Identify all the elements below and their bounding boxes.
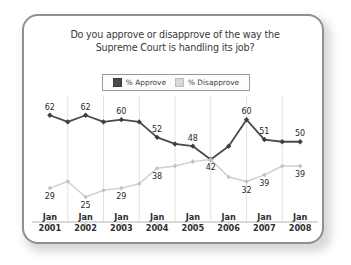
data-point-marker	[119, 186, 124, 191]
data-point-label: 62	[81, 103, 91, 112]
x-tick-year: 2007	[247, 223, 283, 234]
x-axis-tick-label: Jan2003	[104, 212, 140, 244]
chart-title-line-2: Supreme Court is handling its job?	[96, 42, 255, 53]
x-tick-month: Jan	[282, 212, 318, 223]
x-tick-year: 2004	[139, 223, 175, 234]
x-tick-month: Jan	[139, 212, 175, 223]
data-point-marker	[48, 186, 53, 191]
x-axis-tick-label: Jan2002	[68, 212, 104, 244]
x-axis-tick-label: Jan2008	[282, 212, 318, 244]
data-point-marker	[191, 159, 196, 164]
data-point-label: 39	[259, 179, 269, 188]
legend-item-approve: % Approve	[113, 78, 166, 87]
x-tick-year: 2006	[211, 223, 247, 234]
legend-label-disapprove: % Disapprove	[188, 78, 239, 87]
chart-card: Do you approve or disapprove of the way …	[22, 14, 324, 244]
data-point-label: 39	[295, 170, 305, 179]
data-point-label: 52	[152, 125, 162, 134]
x-tick-year: 2001	[32, 223, 68, 234]
data-point-marker	[173, 164, 178, 169]
data-point-label: 38	[152, 172, 162, 181]
data-point-label: 29	[116, 192, 126, 201]
data-point-label: 60	[241, 107, 251, 116]
x-axis-tick-label: Jan2004	[139, 212, 175, 244]
data-point-marker	[298, 164, 303, 169]
data-point-label: 29	[45, 192, 55, 201]
data-point-label: 62	[45, 103, 55, 112]
x-axis-tick-label: Jan2001	[32, 212, 68, 244]
data-point-label: 60	[116, 107, 126, 116]
data-point-label: 48	[188, 134, 198, 143]
data-point-marker	[65, 119, 70, 124]
data-point-marker	[172, 141, 177, 146]
x-tick-year: 2002	[68, 223, 104, 234]
x-tick-month: Jan	[68, 212, 104, 223]
x-tick-year: 2005	[175, 223, 211, 234]
x-tick-month: Jan	[32, 212, 68, 223]
data-point-marker	[101, 119, 106, 124]
data-point-marker	[297, 139, 302, 144]
data-point-label: 50	[295, 129, 305, 138]
data-point-marker	[47, 113, 52, 118]
x-axis-tick-label: Jan2006	[211, 212, 247, 244]
x-axis-tick-label: Jan2007	[247, 212, 283, 244]
data-point-marker	[244, 179, 249, 184]
chart-title: Do you approve or disapprove of the way …	[38, 28, 312, 54]
data-point-label: 25	[81, 201, 91, 210]
data-point-marker	[119, 117, 124, 122]
x-axis-tick-label: Jan2005	[175, 212, 211, 244]
legend-label-approve: % Approve	[126, 78, 166, 87]
x-axis-labels: Jan2001Jan2002Jan2003Jan2004Jan2005Jan20…	[32, 212, 318, 244]
x-tick-month: Jan	[175, 212, 211, 223]
chart-legend: % Approve % Disapprove	[102, 74, 250, 91]
legend-item-disapprove: % Disapprove	[175, 78, 239, 87]
data-point-label: 32	[241, 186, 251, 195]
x-tick-month: Jan	[211, 212, 247, 223]
x-tick-year: 2003	[104, 223, 140, 234]
x-tick-month: Jan	[247, 212, 283, 223]
legend-swatch-approve-icon	[113, 78, 122, 87]
data-point-marker	[280, 139, 285, 144]
x-tick-year: 2008	[282, 223, 318, 234]
data-point-label: 51	[259, 127, 269, 136]
data-point-label: 42	[206, 163, 216, 172]
data-point-marker	[101, 188, 106, 193]
legend-swatch-disapprove-icon	[175, 78, 184, 87]
x-tick-month: Jan	[104, 212, 140, 223]
chart-title-line-1: Do you approve or disapprove of the way …	[70, 29, 279, 40]
data-point-marker	[83, 113, 88, 118]
